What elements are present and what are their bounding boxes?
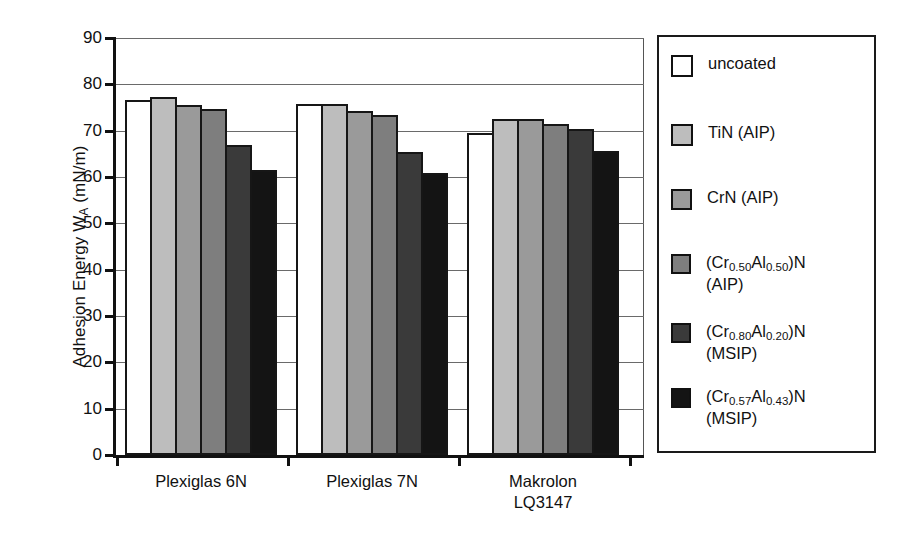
legend-item[interactable]: TiN (AIP) (671, 122, 775, 146)
y-axis-tick-label: 60 (83, 167, 102, 187)
x-axis-tick (287, 455, 290, 466)
bar[interactable] (125, 100, 152, 455)
y-axis-tick (105, 361, 116, 364)
bar[interactable] (542, 124, 569, 455)
bar[interactable] (592, 151, 619, 455)
y-axis-tick (105, 130, 116, 133)
x-axis-category-label: Plexiglas 7N (326, 471, 418, 492)
bar-group (467, 38, 629, 455)
y-axis-tick-label: 40 (83, 260, 102, 280)
bar[interactable] (225, 145, 252, 455)
y-axis-tick (105, 37, 116, 40)
legend-swatch (671, 254, 691, 274)
bar[interactable] (421, 173, 448, 455)
legend-label: (Cr0.80Al0.20)N(MSIP) (706, 321, 806, 363)
x-axis-category-label: Makrolon LQ3147 (509, 471, 577, 513)
y-axis-title-main: Adhesion Energy W (70, 216, 89, 368)
legend-item[interactable]: CrN (AIP) (671, 187, 779, 210)
y-axis-tick (105, 222, 116, 225)
bar-group (296, 38, 458, 455)
bar[interactable] (296, 104, 323, 455)
bar[interactable] (175, 105, 202, 455)
legend-swatch (671, 189, 692, 210)
x-axis-tick (116, 455, 119, 466)
legend-label: CrN (AIP) (707, 187, 779, 207)
legend-swatch (671, 124, 693, 146)
legend-item[interactable]: (Cr0.57Al0.43)N(MSIP) (671, 386, 806, 428)
bar[interactable] (396, 152, 423, 455)
y-axis-tick-label: 70 (83, 121, 102, 141)
y-axis-tick-label: 10 (83, 399, 102, 419)
legend-label: TiN (AIP) (708, 122, 775, 142)
x-axis-tick (629, 455, 632, 466)
legend-label: uncoated (708, 53, 776, 73)
legend-item[interactable]: (Cr0.50Al0.50)N(AIP) (671, 252, 806, 294)
x-axis-tick (458, 455, 461, 466)
legend-label: (Cr0.57Al0.43)N(MSIP) (706, 386, 806, 428)
bar[interactable] (346, 111, 373, 455)
bar[interactable] (250, 170, 277, 455)
legend-item[interactable]: (Cr0.80Al0.20)N(MSIP) (671, 321, 806, 363)
y-axis-tick (105, 454, 116, 457)
bar[interactable] (567, 129, 594, 455)
y-axis-tick-label: 80 (83, 74, 102, 94)
y-axis-tick-label: 50 (83, 213, 102, 233)
bar-chart-figure: Adhesion Energy WA (mN/m) 90807060504030… (0, 0, 904, 534)
bar[interactable] (150, 97, 177, 455)
y-axis-tick (105, 269, 116, 272)
y-axis-tick-label: 90 (83, 28, 102, 48)
y-axis-tick (105, 176, 116, 179)
y-axis-tick-label: 20 (83, 352, 102, 372)
legend-label: (Cr0.50Al0.50)N(AIP) (706, 252, 806, 294)
plot-frame-right (643, 38, 644, 455)
bar[interactable] (492, 119, 519, 455)
bar[interactable] (467, 133, 494, 455)
legend-swatch (671, 323, 691, 343)
legend: uncoatedTiN (AIP)CrN (AIP)(Cr0.50Al0.50)… (657, 35, 876, 453)
bar[interactable] (321, 104, 348, 455)
legend-swatch (671, 55, 693, 77)
y-axis-tick-label: 0 (93, 445, 102, 465)
plot-area: 9080706050403020100 Plexiglas 6NPlexigla… (113, 38, 644, 458)
bar[interactable] (371, 115, 398, 455)
y-axis-tick-label: 30 (83, 306, 102, 326)
y-axis-tick (105, 83, 116, 86)
legend-item[interactable]: uncoated (671, 53, 776, 77)
y-axis-tick (105, 408, 116, 411)
bar-group (125, 38, 287, 455)
x-axis-category-label: Plexiglas 6N (155, 471, 247, 492)
y-axis-tick (105, 315, 116, 318)
bar[interactable] (517, 119, 544, 455)
legend-swatch (671, 388, 691, 408)
bar[interactable] (200, 109, 227, 455)
